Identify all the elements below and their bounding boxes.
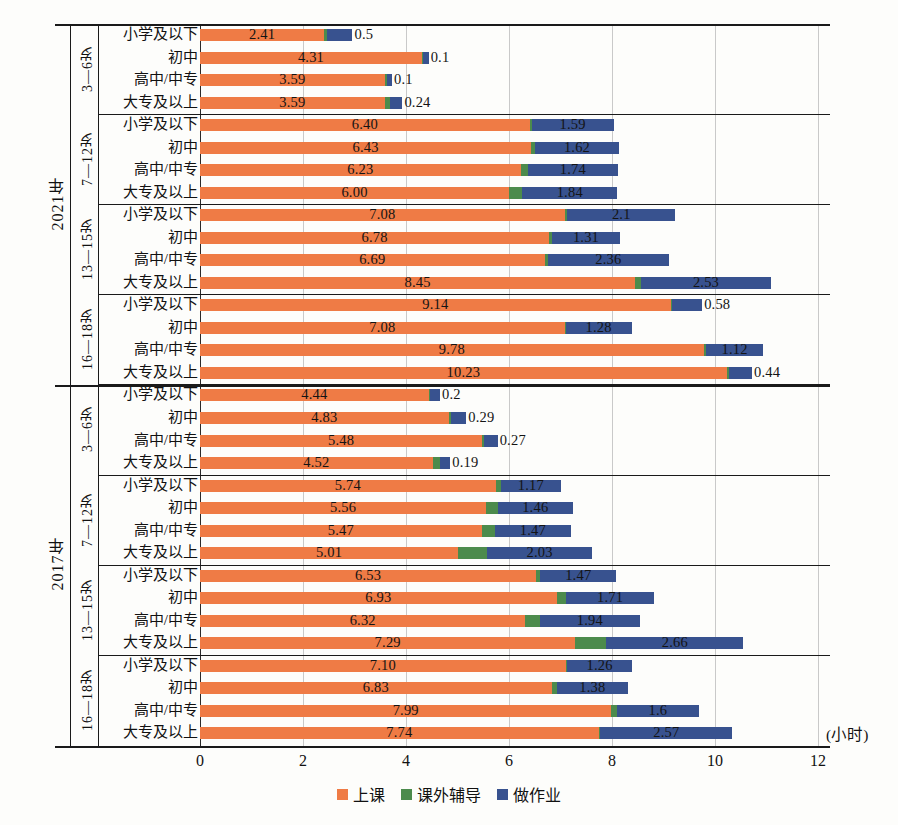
bar-value-label-homework: 1.62 xyxy=(564,139,590,155)
bar-value-label-homework: 2.1 xyxy=(612,206,631,222)
bar-value-label-lesson: 5.48 xyxy=(328,432,354,448)
bar-value-label-lesson: 6.78 xyxy=(361,229,387,245)
bar-value-label-homework: 1.94 xyxy=(577,612,603,628)
legend-swatch-icon xyxy=(401,789,412,800)
bar-value-label-homework: 1.46 xyxy=(522,499,548,515)
stacked-bar xyxy=(200,164,618,176)
x-axis-tick-label: 6 xyxy=(505,752,513,770)
stacked-bar xyxy=(200,480,561,492)
bar-segment-tutoring xyxy=(486,502,497,514)
stacked-bar xyxy=(200,570,616,582)
stacked-bar xyxy=(200,299,702,311)
bar-value-label-lesson: 2.41 xyxy=(249,26,275,42)
bar-row: 5.480.27 xyxy=(0,430,898,453)
bar-value-label-homework: 2.57 xyxy=(653,724,679,740)
bar-value-label-lesson: 6.00 xyxy=(341,184,367,200)
bar-segment-tutoring xyxy=(433,457,441,469)
bar-value-label-homework: 1.26 xyxy=(587,657,613,673)
bar-row: 6.001.84 xyxy=(0,182,898,205)
bar-row: 2.410.5 xyxy=(0,24,898,47)
bar-segment-homework xyxy=(423,52,428,64)
bar-value-label-homework: 1.31 xyxy=(573,229,599,245)
bar-value-label-lesson: 4.83 xyxy=(311,409,337,425)
bar-value-label-homework: 2.36 xyxy=(595,251,621,267)
stacked-bar xyxy=(200,142,619,154)
bar-value-label-homework: 1.74 xyxy=(560,161,586,177)
stacked-bar xyxy=(200,682,628,694)
chart-legend: 上课课外辅导做作业 xyxy=(0,782,898,806)
bar-row: 10.230.44 xyxy=(0,362,898,385)
bar-value-label-homework: 0.24 xyxy=(404,94,430,110)
bar-value-label-lesson: 7.74 xyxy=(386,724,412,740)
legend-swatch-icon xyxy=(337,789,348,800)
bar-value-label-lesson: 6.83 xyxy=(363,679,389,695)
stacked-bar xyxy=(200,209,675,221)
bar-value-label-homework: 0.2 xyxy=(442,386,461,402)
bar-row: 4.830.29 xyxy=(0,407,898,430)
bar-segment-homework xyxy=(387,74,392,86)
bar-row: 6.231.74 xyxy=(0,159,898,182)
bar-segment-homework xyxy=(430,389,440,401)
stacked-bar xyxy=(200,525,571,537)
stacked-bar xyxy=(200,277,771,289)
bar-value-label-lesson: 3.59 xyxy=(279,71,305,87)
bar-value-label-lesson: 6.32 xyxy=(350,612,376,628)
bar-segment-tutoring xyxy=(521,164,528,176)
bar-segment-homework xyxy=(390,97,402,109)
bar-value-label-homework: 1.38 xyxy=(579,679,605,695)
x-axis-tick-label: 8 xyxy=(608,752,616,770)
bar-value-label-lesson: 4.31 xyxy=(298,49,324,65)
bar-value-label-lesson: 5.56 xyxy=(330,499,356,515)
bar-value-label-lesson: 7.08 xyxy=(369,206,395,222)
bar-value-label-homework: 0.1 xyxy=(394,71,413,87)
bar-value-label-homework: 1.71 xyxy=(597,589,623,605)
bar-segment-tutoring xyxy=(509,187,522,199)
frame-top-rule xyxy=(55,24,830,26)
stacked-bar xyxy=(200,502,573,514)
bar-row: 6.692.36 xyxy=(0,249,898,272)
bar-value-label-homework: 1.17 xyxy=(518,477,544,493)
x-axis-unit-label: (小时) xyxy=(826,722,868,744)
legend-item[interactable]: 上课 xyxy=(337,782,385,806)
bar-segment-homework xyxy=(672,299,702,311)
bar-value-label-lesson: 7.10 xyxy=(370,657,396,673)
bar-value-label-homework: 0.58 xyxy=(704,296,730,312)
stacked-bar xyxy=(200,592,654,604)
bar-value-label-homework: 1.28 xyxy=(586,319,612,335)
x-axis-tick-label: 2 xyxy=(299,752,307,770)
legend-label: 课外辅导 xyxy=(417,782,481,806)
legend-item[interactable]: 做作业 xyxy=(497,782,561,806)
bar-value-label-lesson: 5.74 xyxy=(335,477,361,493)
bar-row: 3.590.24 xyxy=(0,92,898,115)
x-axis-tick-label: 12 xyxy=(810,752,826,770)
bar-row: 7.742.57 xyxy=(0,722,898,745)
bar-segment-homework xyxy=(729,367,752,379)
bar-row: 9.140.58 xyxy=(0,294,898,317)
x-axis-tick-label: 4 xyxy=(402,752,410,770)
bar-row: 3.590.1 xyxy=(0,69,898,92)
legend-label: 做作业 xyxy=(513,782,561,806)
frame-bottom-rule xyxy=(55,746,830,748)
bar-value-label-homework: 0.27 xyxy=(500,432,526,448)
bar-row: 6.781.31 xyxy=(0,227,898,250)
bar-row: 5.471.47 xyxy=(0,520,898,543)
bar-value-label-lesson: 7.08 xyxy=(369,319,395,335)
bar-value-label-lesson: 6.69 xyxy=(359,251,385,267)
stacked-bar xyxy=(200,29,352,41)
bar-value-label-homework: 2.66 xyxy=(662,634,688,650)
frame-mid-rule xyxy=(55,385,830,387)
bar-value-label-homework: 1.47 xyxy=(565,567,591,583)
bar-row: 5.012.03 xyxy=(0,542,898,565)
bar-row: 7.101.26 xyxy=(0,655,898,678)
bar-row: 6.321.94 xyxy=(0,610,898,633)
bar-row: 5.741.17 xyxy=(0,475,898,498)
legend-item[interactable]: 课外辅导 xyxy=(401,782,481,806)
bar-value-label-lesson: 3.59 xyxy=(279,94,305,110)
bar-row: 6.931.71 xyxy=(0,587,898,610)
bar-row: 7.991.6 xyxy=(0,700,898,723)
bar-value-label-lesson: 9.78 xyxy=(439,341,465,357)
bar-value-label-lesson: 7.29 xyxy=(375,634,401,650)
stacked-bar xyxy=(200,615,640,627)
bar-segment-homework xyxy=(484,435,498,447)
bar-value-label-homework: 0.19 xyxy=(452,454,478,470)
